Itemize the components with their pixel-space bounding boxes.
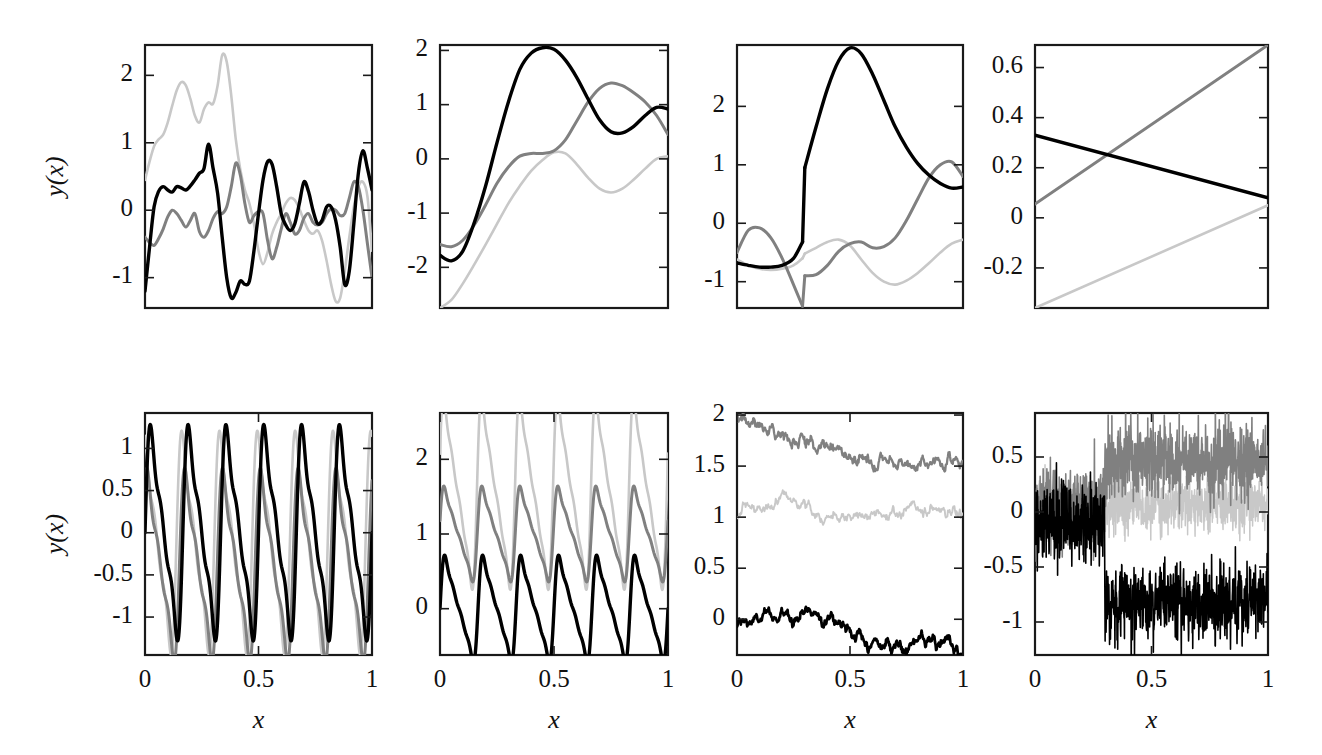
y-tick-label: -0.5 [93, 559, 133, 586]
x-tick-label: 0.5 [1136, 665, 1167, 692]
x-tick-label: 0 [139, 665, 152, 692]
y-tick-label: 2 [121, 59, 134, 86]
y-tick-label: 1 [713, 149, 726, 176]
x-tick-label: 0 [434, 665, 447, 692]
x-tick-label: 0 [1029, 665, 1042, 692]
x-axis-label: x [1145, 705, 1158, 734]
plot-frame [1035, 45, 1268, 308]
y-tick-label: 0 [1011, 496, 1024, 523]
y-tick-label: 1.5 [694, 450, 725, 477]
y-tick-label: 0 [713, 603, 726, 630]
x-tick-label: 1 [1262, 665, 1275, 692]
x-axis-label: x [252, 705, 265, 734]
y-axis-label: y(x) [40, 156, 69, 199]
y-tick-label: 0 [713, 207, 726, 234]
y-tick-label: 0 [121, 516, 134, 543]
y-tick-label: 0 [416, 143, 429, 170]
y-tick-label: 1 [121, 432, 134, 459]
y-tick-label: 1 [121, 127, 134, 154]
y-tick-label: 2 [713, 90, 726, 117]
y-tick-label: 0.2 [992, 151, 1023, 178]
y-tick-label: 0 [121, 194, 134, 221]
data-curve [803, 168, 805, 242]
y-tick-label: -0.2 [983, 252, 1023, 279]
x-axis-label: x [843, 705, 856, 734]
y-axis-label: y(x) [40, 514, 69, 557]
y-tick-label: -0.5 [983, 551, 1023, 578]
x-axis-label: x [547, 705, 560, 734]
y-tick-label: 1 [416, 88, 429, 115]
y-tick-label: 0.5 [992, 441, 1023, 468]
x-tick-label: 0.5 [538, 665, 569, 692]
y-tick-label: 0 [1011, 202, 1024, 229]
subplot-8: -1-0.500.500.51x [915, 393, 1288, 755]
x-tick-label: 0 [731, 665, 744, 692]
y-tick-label: -1 [112, 601, 133, 628]
y-tick-label: -1 [704, 265, 725, 292]
y-tick-label: 0.5 [102, 474, 133, 501]
y-tick-label: 0.5 [694, 552, 725, 579]
y-tick-label: 1 [416, 518, 429, 545]
y-tick-label: -2 [407, 251, 428, 278]
figure-root: -1012y(x)-2-1012-1012-0.200.20.40.6-1-0.… [0, 0, 1322, 755]
y-tick-label: 1 [713, 501, 726, 528]
subplot-4: -0.200.20.40.6 [915, 25, 1288, 408]
y-tick-label: -1 [1002, 606, 1023, 633]
y-tick-label: 2 [713, 399, 726, 426]
y-tick-label: 0.6 [992, 51, 1023, 78]
y-tick-label: 0.4 [992, 101, 1024, 128]
y-tick-label: -1 [112, 261, 133, 288]
y-tick-label: 2 [416, 34, 429, 61]
x-tick-label: 0.5 [834, 665, 865, 692]
y-tick-label: -1 [407, 197, 428, 224]
y-tick-label: 2 [416, 443, 429, 470]
y-tick-label: 0 [416, 592, 429, 619]
x-tick-label: 0.5 [243, 665, 274, 692]
